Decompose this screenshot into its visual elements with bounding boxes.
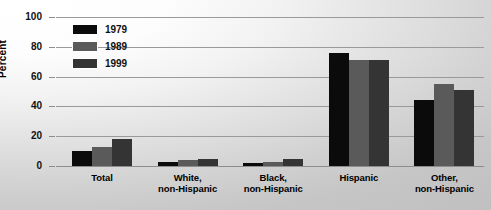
legend-item: 1999: [72, 56, 127, 70]
bar: [72, 151, 92, 166]
bar: [454, 90, 474, 166]
y-axis-tick-mark: [49, 77, 55, 78]
y-axis-tick-label: 20: [0, 130, 42, 141]
legend-item: 1989: [72, 39, 127, 53]
bar: [349, 60, 369, 166]
bar: [283, 159, 303, 166]
x-axis-category-line: Other,: [394, 172, 491, 183]
bar-group: [329, 17, 389, 166]
y-axis-tick-label: 40: [0, 100, 42, 111]
legend-label: 1999: [105, 58, 127, 69]
bar: [158, 162, 178, 166]
bar: [329, 53, 349, 166]
y-axis-tick-label: 0: [0, 160, 42, 171]
bar: [414, 100, 434, 166]
x-axis-category-line: non-Hispanic: [223, 183, 323, 194]
bar: [369, 60, 389, 166]
x-axis-category-label: Other,non-Hispanic: [394, 172, 491, 194]
x-axis-category-line: non-Hispanic: [394, 183, 491, 194]
y-axis-tick-label: 100: [0, 11, 42, 22]
bar: [198, 159, 218, 166]
bar: [178, 160, 198, 166]
bar: [434, 84, 454, 166]
legend-label: 1989: [105, 41, 127, 52]
y-axis-tick-mark: [49, 47, 55, 48]
y-axis-tick-mark: [49, 166, 55, 167]
y-axis-tick-label: 80: [0, 41, 42, 52]
bar: [92, 147, 112, 166]
bar: [112, 139, 132, 166]
legend-swatch-icon: [72, 41, 98, 52]
legend-item: 1979: [72, 22, 127, 36]
y-axis-tick-mark: [49, 136, 55, 137]
bar-chart: Percent 020406080100 TotalWhite,non-Hisp…: [0, 0, 491, 210]
gridline: [56, 166, 484, 167]
y-axis-tick-mark: [49, 106, 55, 107]
y-axis-tick-label: 60: [0, 71, 42, 82]
legend-swatch-icon: [72, 58, 98, 69]
bar-group: [243, 17, 303, 166]
bar: [243, 163, 263, 166]
bar-group: [414, 17, 474, 166]
y-axis-tick-mark: [49, 17, 55, 18]
legend: 1979 1989 1999: [72, 22, 127, 73]
bar: [263, 162, 283, 166]
bar-group: [158, 17, 218, 166]
legend-label: 1979: [105, 24, 127, 35]
legend-swatch-icon: [72, 24, 98, 35]
